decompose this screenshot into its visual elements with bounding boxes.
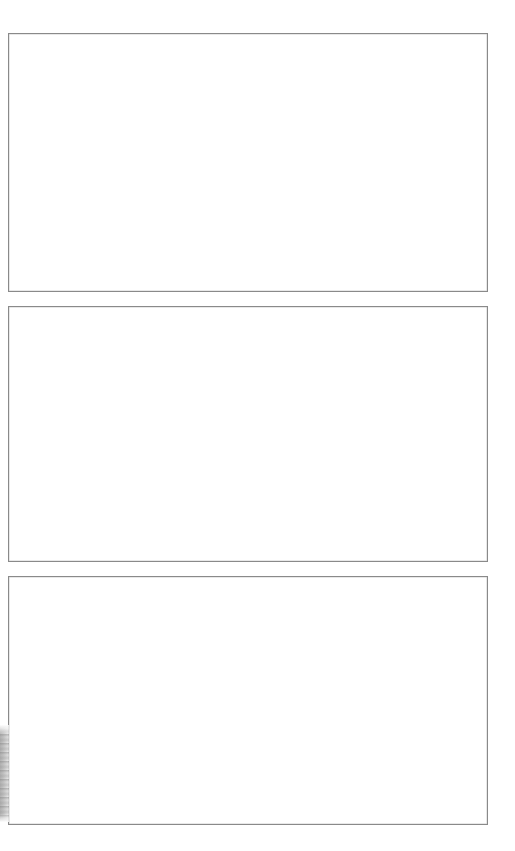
figure-panel-2-content [9,307,487,561]
figure-panel-1-content [9,34,487,291]
figure-panel-1[interactable] [8,33,488,292]
left-edge-scan-artifact [0,725,9,822]
figure-panel-3[interactable] [8,576,488,825]
figure-panel-3-content [9,577,487,824]
page-canvas [0,0,515,851]
figure-panel-2[interactable] [8,306,488,562]
